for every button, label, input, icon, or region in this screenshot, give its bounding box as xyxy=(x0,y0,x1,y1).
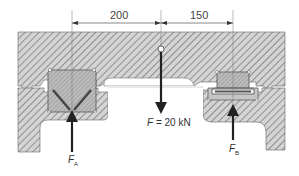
reaction-b-label: FB xyxy=(229,143,239,156)
dimension-200-label: 200 xyxy=(110,9,128,21)
guide-diagram: 200 150 F = 20 kN FA FB xyxy=(0,0,299,176)
reaction-a-label: FA xyxy=(68,154,78,167)
clearance-gap xyxy=(104,78,194,86)
dimension-150-label: 150 xyxy=(190,9,208,21)
gap-shadow xyxy=(108,86,203,88)
load-label: F = 20 kN xyxy=(147,117,191,128)
